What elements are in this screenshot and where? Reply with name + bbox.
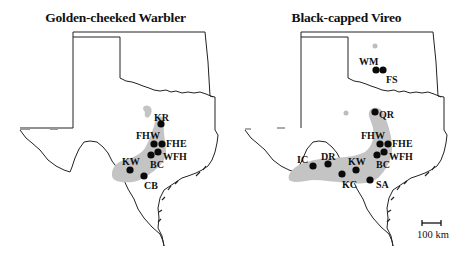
svg-text:KC: KC — [342, 179, 357, 190]
svg-text:KR: KR — [154, 112, 170, 123]
map-panel-black-capped-vireo: Black-capped Vireo WM FS QR FHW FHE — [231, 0, 462, 257]
map-panel-golden-cheeked-warbler: Golden-cheeked Warbler KR FHW FHE WFH — [0, 0, 231, 257]
map-svg: WM FS QR FHW FHE WFH BC KW DR IC KC SA 1… — [231, 0, 462, 257]
svg-text:SA: SA — [376, 179, 390, 190]
svg-text:FHE: FHE — [166, 138, 187, 149]
svg-text:WFH: WFH — [389, 151, 413, 162]
site-CB: CB — [140, 172, 158, 191]
scale-bar: 100 km — [417, 220, 449, 240]
svg-text:FHW: FHW — [136, 130, 160, 141]
svg-text:CB: CB — [144, 180, 158, 191]
site-WM: WM — [359, 56, 380, 74]
svg-text:KW: KW — [122, 156, 140, 167]
svg-text:FHE: FHE — [392, 138, 413, 149]
outlier-points — [344, 44, 378, 116]
site-FS: FS — [379, 66, 398, 85]
svg-text:BC: BC — [150, 159, 164, 170]
site-SA: SA — [366, 176, 389, 190]
scale-bar-label: 100 km — [417, 229, 449, 240]
map-svg: KR FHW FHE WFH BC KW CB — [0, 0, 231, 257]
svg-text:BC: BC — [376, 159, 390, 170]
state-outline — [20, 32, 218, 246]
svg-text:KW: KW — [348, 156, 366, 167]
svg-text:QR: QR — [379, 109, 395, 120]
state-outline — [245, 32, 447, 246]
svg-text:WM: WM — [359, 56, 379, 67]
svg-text:FS: FS — [386, 74, 398, 85]
svg-text:IC: IC — [297, 154, 308, 165]
svg-text:DR: DR — [321, 151, 336, 162]
svg-text:FHW: FHW — [361, 130, 385, 141]
svg-text:WFH: WFH — [163, 151, 187, 162]
state-border-dashed — [245, 128, 285, 129]
